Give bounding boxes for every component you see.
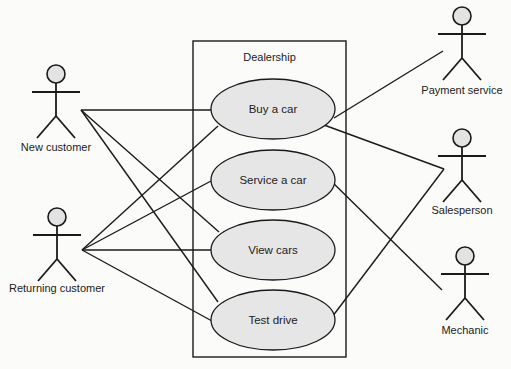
stick-figure-icon: [441, 247, 489, 320]
actor-label: Salesperson: [431, 204, 492, 216]
use-case-buy[interactable]: Buy a car: [211, 79, 335, 139]
actor-label: Mechanic: [441, 324, 489, 336]
stick-figure-icon: [32, 65, 80, 138]
use-case-test[interactable]: Test drive: [211, 290, 335, 350]
actor-returning[interactable]: Returning customer: [9, 208, 105, 294]
use-case-label: Buy a car: [249, 103, 298, 115]
use-case-label: Service a car: [239, 174, 306, 186]
actor-label: New customer: [21, 141, 92, 153]
actor-label: Returning customer: [9, 282, 105, 294]
use-case-diagram: Dealership Buy a carService a carView ca…: [0, 0, 511, 369]
use-case-service[interactable]: Service a car: [211, 150, 335, 210]
actor-label: Payment service: [421, 84, 502, 96]
system-boundary-label: Dealership: [243, 51, 296, 63]
stick-figure-icon: [438, 129, 486, 202]
use-case-label: View cars: [248, 244, 298, 256]
actor-mechanic[interactable]: Mechanic: [441, 247, 489, 336]
use-case-label: Test drive: [248, 314, 297, 326]
stick-figure-icon: [33, 208, 81, 281]
use-case-view[interactable]: View cars: [211, 220, 335, 280]
stick-figure-icon: [438, 7, 486, 80]
actor-payment[interactable]: Payment service: [421, 7, 502, 96]
actor-new[interactable]: New customer: [21, 65, 92, 153]
